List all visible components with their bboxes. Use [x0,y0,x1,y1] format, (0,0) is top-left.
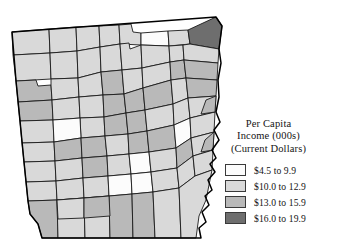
county-dallas[interactable] [107,154,131,176]
legend-title-line-3: (Current Dollars) [196,143,341,155]
county-ouachita[interactable] [109,194,133,238]
county-calhoun[interactable] [108,174,132,196]
county-clark[interactable] [83,176,109,198]
county-marion[interactable] [99,25,120,47]
legend-swatch-1 [225,164,246,176]
county-sevier[interactable] [24,161,56,182]
county-franklin[interactable] [51,78,79,100]
county-ashley[interactable] [153,188,181,238]
county-perry[interactable] [80,117,105,138]
county-craighead[interactable] [186,78,217,98]
county-pope[interactable] [101,70,124,95]
legend-label-2: $10.0 to 12.9 [254,181,306,192]
county-layer [12,17,222,238]
county-union[interactable] [132,192,155,238]
choropleth-figure: Per Capita Income (000s) (Current Dollar… [0,0,343,250]
county-yell[interactable] [79,95,104,118]
county-logan[interactable] [52,97,80,120]
legend-item-4[interactable]: $16.0 to 19.9 [225,210,343,226]
county-carroll[interactable] [49,27,77,53]
county-benton[interactable] [12,29,50,55]
legend-swatch-3 [225,196,246,208]
county-sebastian[interactable] [18,100,53,121]
legend-item-2[interactable]: $10.0 to 12.9 [225,178,343,194]
county-columbia[interactable] [84,196,110,218]
county-howard[interactable] [56,178,84,200]
county-scott[interactable] [20,120,54,143]
county-cleveland[interactable] [129,152,151,174]
county-bradley[interactable] [131,172,153,194]
county-greene[interactable] [184,60,218,80]
county-independence[interactable] [170,60,186,80]
county-lafayette[interactable] [57,198,84,219]
county-lonoke[interactable] [126,110,147,134]
legend-label-3: $13.0 to 15.9 [254,197,306,208]
county-washington[interactable] [13,53,51,81]
county-miller[interactable] [28,200,58,238]
county-fulton[interactable] [141,31,169,46]
legend-title-line-1: Per Capita [196,118,341,130]
county-grant[interactable] [105,134,129,156]
legend-title: Per Capita Income (000s) (Current Dollar… [196,118,343,155]
legend-swatch-4 [225,212,246,224]
county-garland[interactable] [54,138,82,161]
county-little-river[interactable] [26,181,57,201]
county-jefferson[interactable] [128,131,149,154]
legend-title-line-2: Income (000s) [196,130,341,142]
legend-label-4: $16.0 to 19.9 [254,213,306,224]
county-randolph[interactable] [168,30,190,46]
legend-item-list: $4.5 to 9.9 $10.0 to 12.9 $13.0 to 15.9 … [196,162,343,226]
county-polk[interactable] [22,142,55,162]
legend-swatch-2 [225,180,246,192]
map-legend: Per Capita Income (000s) (Current Dollar… [196,118,343,226]
county-madison[interactable] [50,51,78,79]
county-pike[interactable] [55,158,83,181]
legend-item-1[interactable]: $4.5 to 9.9 [225,162,343,178]
legend-label-1: $4.5 to 9.9 [254,165,296,176]
county-crawford[interactable] [16,80,52,102]
county-pulaski[interactable] [104,113,128,136]
county-stone[interactable] [120,43,142,70]
county-baxter[interactable] [119,24,141,45]
legend-item-3[interactable]: $13.0 to 15.9 [225,194,343,210]
county-searcy[interactable] [100,44,122,72]
county-saline[interactable] [81,136,107,158]
county-hot-spring[interactable] [82,156,108,178]
county-sharp[interactable] [169,45,184,62]
